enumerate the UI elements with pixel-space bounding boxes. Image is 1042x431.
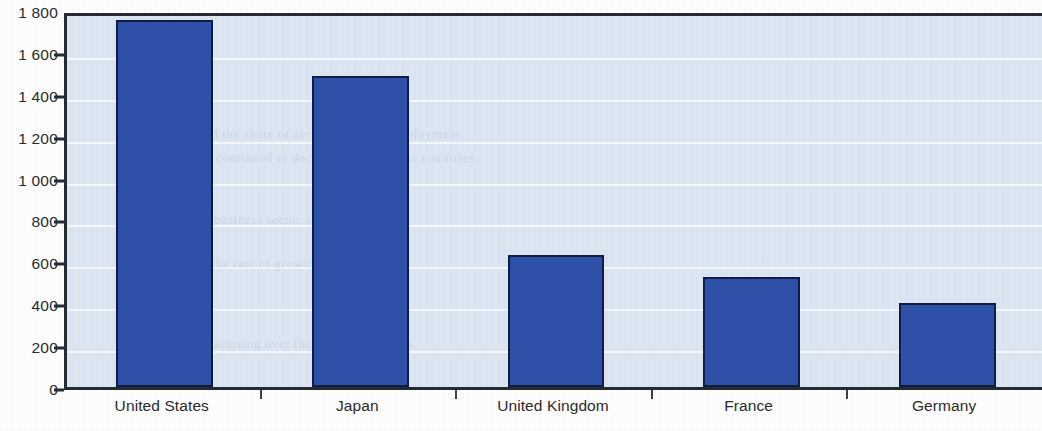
x-axis-category-label: United Kingdom (497, 397, 609, 415)
x-axis-category-labels: United StatesJapanUnited KingdomFranceGe… (64, 397, 1042, 431)
y-axis-tick-label: 1 600 (0, 46, 58, 64)
bar-chart-figure: 02004006008001 0001 2001 4001 6001 800 t… (0, 0, 1042, 431)
bar-series (67, 16, 1042, 387)
y-axis-tick-label: 1 000 (0, 172, 58, 190)
y-axis-tick-label: 1 400 (0, 88, 58, 106)
x-axis-category-label: United States (115, 397, 209, 415)
bar (899, 303, 996, 387)
x-axis-category-label: France (724, 397, 773, 415)
bar (703, 277, 800, 387)
y-axis-tick-label: 1 800 (0, 4, 58, 22)
bar (312, 76, 409, 387)
y-axis-tick-labels: 02004006008001 0001 2001 4001 6001 800 (0, 0, 58, 431)
bar (116, 20, 213, 387)
y-axis-tick-label: 600 (0, 255, 58, 273)
y-axis-tick-label: 1 200 (0, 130, 58, 148)
plot-area: the same period the share of services in… (64, 13, 1042, 390)
y-axis-tick-label: 800 (0, 213, 58, 231)
x-axis-category-label: Japan (336, 397, 379, 415)
y-axis-tick-label: 200 (0, 339, 58, 357)
x-axis-category-label: Germany (912, 397, 976, 415)
y-axis-tick-label: 400 (0, 297, 58, 315)
y-axis-tick-label: 0 (0, 381, 58, 399)
bar (508, 255, 605, 387)
